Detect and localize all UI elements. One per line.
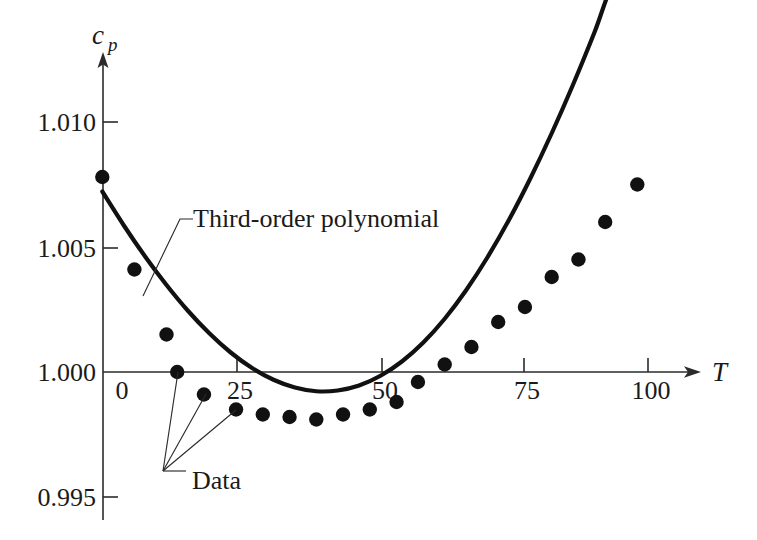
third-order-polynomial-curve xyxy=(102,0,642,391)
y-axis-title: c xyxy=(92,20,104,50)
y-tick-labels: 1.010 1.005 1.000 0.995 xyxy=(38,108,97,512)
y-tick-label-1005: 1.005 xyxy=(38,234,97,263)
data-point xyxy=(282,410,296,424)
y-tick-label-1000: 1.000 xyxy=(38,358,97,387)
data-annotation-leader xyxy=(163,372,178,471)
data-annotation-label: Data xyxy=(192,466,242,495)
data-point xyxy=(411,375,425,389)
data-point xyxy=(571,252,585,266)
poly-annotation-label: Third-order polynomial xyxy=(193,204,439,233)
chart-figure: 1.010 1.005 1.000 0.995 0 25 50 75 100 c… xyxy=(0,0,757,540)
data-point xyxy=(389,395,403,409)
data-point xyxy=(438,357,452,371)
y-tick-label-1010: 1.010 xyxy=(38,108,97,137)
x-tick-label-25: 25 xyxy=(227,376,253,405)
data-point xyxy=(363,402,377,416)
data-annotation-leader-lines xyxy=(163,372,236,471)
data-point xyxy=(127,262,141,276)
data-point xyxy=(95,170,109,184)
x-tick-label-0: 0 xyxy=(116,376,129,405)
data-point xyxy=(491,315,505,329)
data-point xyxy=(630,177,644,191)
data-point xyxy=(309,412,323,426)
x-axis xyxy=(103,366,701,378)
chart-svg: 1.010 1.005 1.000 0.995 0 25 50 75 100 c… xyxy=(0,0,757,540)
data-point xyxy=(545,270,559,284)
data-annotation-leader xyxy=(163,394,206,471)
data-point xyxy=(518,300,532,314)
data-point xyxy=(159,327,173,341)
data-point xyxy=(256,407,270,421)
poly-annotation: Third-order polynomial xyxy=(143,204,439,296)
data-annotation-leader xyxy=(163,410,236,471)
data-point xyxy=(336,407,350,421)
x-axis-title: T xyxy=(712,357,729,387)
x-tick-label-100: 100 xyxy=(632,376,671,405)
data-point xyxy=(598,215,612,229)
y-axis-title-subscript: p xyxy=(106,34,118,55)
data-point xyxy=(197,387,211,401)
y-tick-label-0995: 0.995 xyxy=(38,483,97,512)
data-point xyxy=(464,340,478,354)
x-tick-label-75: 75 xyxy=(514,376,540,405)
